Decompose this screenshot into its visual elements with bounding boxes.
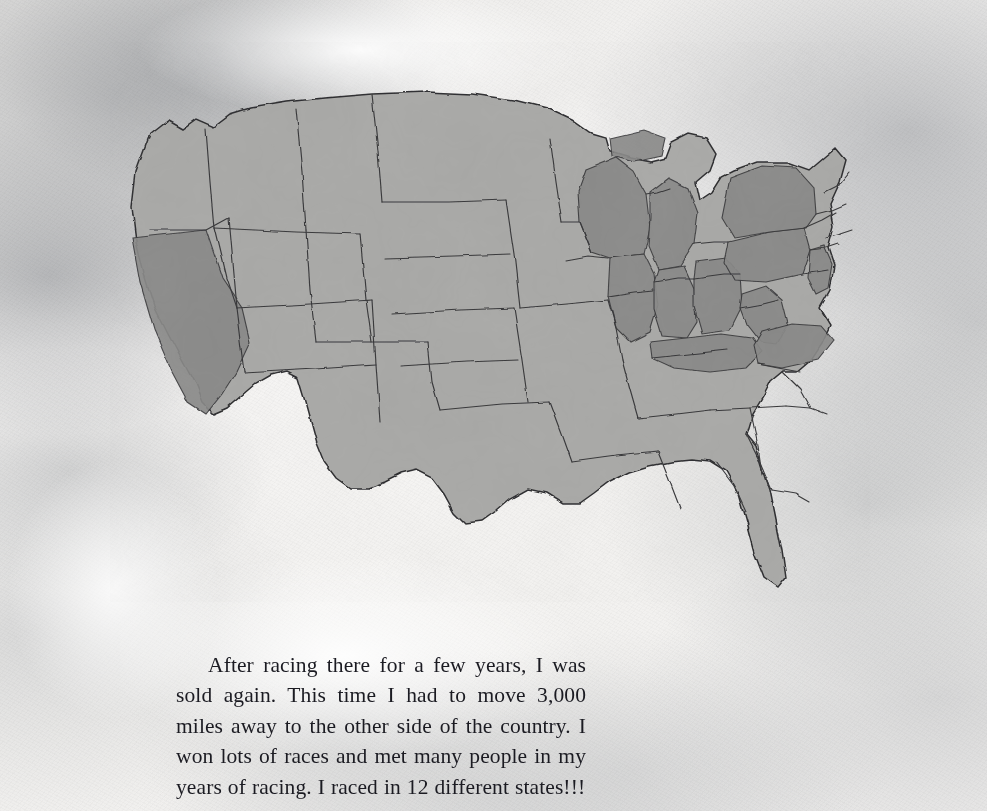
us-map-illustration (110, 42, 870, 602)
us-map-svg (110, 42, 870, 602)
state-border-line (782, 372, 810, 408)
map-watercolor-mottle (132, 92, 846, 588)
story-paragraph: After racing there for a few years, I wa… (176, 650, 586, 803)
state-border-line (772, 490, 810, 502)
state-border-line (786, 406, 826, 414)
book-page: After racing there for a few years, I wa… (0, 0, 987, 811)
